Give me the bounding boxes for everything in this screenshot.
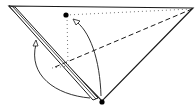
- reference-dot-bottom: [99, 99, 104, 104]
- arrowhead-flap: [33, 40, 38, 46]
- paper-triangle: [9, 6, 193, 101]
- reference-dot-top: [63, 12, 68, 17]
- origami-diagram: [0, 0, 195, 111]
